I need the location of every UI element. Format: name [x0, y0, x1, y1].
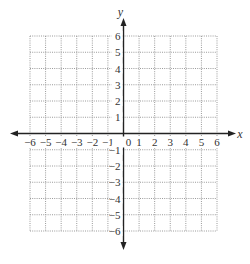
- x-tick-label: −4: [55, 136, 67, 148]
- x-tick-label: −5: [40, 136, 52, 148]
- x-tick-label: 0: [126, 136, 132, 148]
- y-tick-label: −3: [109, 176, 121, 188]
- y-tick-label: −2: [109, 160, 121, 172]
- y-tick-label: −1: [109, 144, 121, 156]
- tick-labels: xy−6−5−4−3−2−10123456654321−1−2−3−4−5−6: [23, 5, 243, 237]
- y-axis-label: y: [117, 5, 124, 19]
- x-tick-label: −6: [24, 136, 36, 148]
- y-tick-label: 3: [115, 79, 121, 91]
- x-tick-label: 5: [199, 136, 205, 148]
- x-tick-label: 1: [136, 136, 142, 148]
- x-axis-right-arrow-icon: [228, 131, 236, 137]
- y-tick-label: 5: [115, 46, 121, 58]
- y-tick-label: −4: [109, 193, 121, 205]
- y-axis-down-arrow-icon: [121, 242, 127, 250]
- y-tick-label: 1: [115, 111, 121, 123]
- x-axis-left-arrow-icon: [10, 131, 18, 137]
- x-tick-label: 6: [214, 136, 220, 148]
- y-tick-label: 4: [115, 63, 121, 75]
- x-tick-label: 3: [168, 136, 174, 148]
- y-tick-label: 2: [115, 95, 121, 107]
- x-tick-label: 2: [152, 136, 158, 148]
- x-tick-label: 4: [183, 136, 189, 148]
- y-tick-label: −6: [109, 225, 121, 237]
- y-axis-up-arrow-icon: [121, 18, 127, 26]
- y-tick-label: 6: [115, 30, 121, 42]
- y-tick-label: −5: [109, 209, 121, 221]
- coordinate-plane: xy−6−5−4−3−2−10123456654321−1−2−3−4−5−6: [0, 0, 250, 264]
- x-axis-label: x: [236, 127, 243, 141]
- x-tick-label: −3: [71, 136, 83, 148]
- x-tick-label: −2: [86, 136, 98, 148]
